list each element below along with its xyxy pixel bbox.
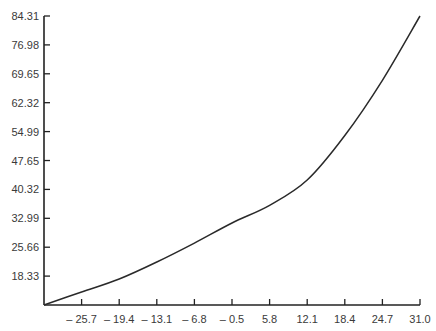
- y-tick-label: 54.99: [11, 126, 39, 138]
- x-tick-label: 24.7: [372, 313, 393, 325]
- y-tick-label: 84.31: [11, 10, 39, 22]
- x-tick-label: – 25.7: [66, 313, 97, 325]
- x-tick-label: – 0.5: [220, 313, 244, 325]
- line-chart: 18.3325.6632.9940.3247.6554.9962.3269.65…: [0, 0, 436, 331]
- x-tick-label: 31.0: [409, 313, 430, 325]
- x-tick-label: – 13.1: [142, 313, 173, 325]
- y-tick-label: 47.65: [11, 155, 39, 167]
- data-curve: [44, 16, 420, 305]
- y-axis: 18.3325.6632.9940.3247.6554.9962.3269.65…: [11, 10, 50, 305]
- x-tick-group: – 25.7– 19.4– 13.1– 6.8– 0.55.812.118.42…: [66, 299, 430, 325]
- x-tick-label: 18.4: [334, 313, 355, 325]
- x-tick-label: 12.1: [296, 313, 317, 325]
- y-tick-label: 62.32: [11, 97, 39, 109]
- y-tick-label: 18.33: [11, 270, 39, 282]
- y-tick-label: 40.32: [11, 183, 39, 195]
- x-tick-label: – 6.8: [182, 313, 206, 325]
- x-tick-label: – 19.4: [104, 313, 135, 325]
- y-tick-label: 69.65: [11, 68, 39, 80]
- x-tick-label: 5.8: [262, 313, 277, 325]
- y-tick-label: 76.98: [11, 39, 39, 51]
- x-axis: – 25.7– 19.4– 13.1– 6.8– 0.55.812.118.42…: [44, 299, 431, 325]
- y-tick-label: 32.99: [11, 212, 39, 224]
- y-tick-label: 25.66: [11, 241, 39, 253]
